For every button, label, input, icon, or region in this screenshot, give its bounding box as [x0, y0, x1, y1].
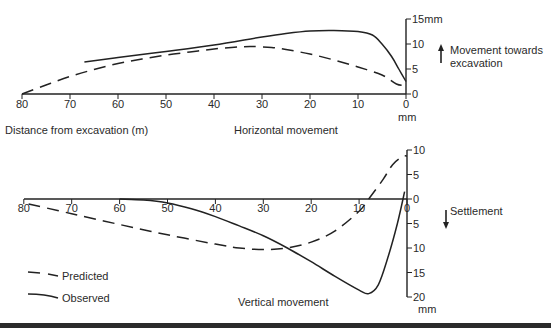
settlement-figure: 80706050403020100051015mm Distance from … [0, 0, 551, 328]
y-tick-label: 15 [413, 267, 425, 279]
y-tick-label: 10 [413, 144, 425, 156]
bottom-border-bar [0, 323, 551, 328]
y-tick-label: 0 [412, 88, 418, 100]
legend-predicted-label: Predicted [62, 270, 108, 282]
x-tick-label: 80 [16, 98, 28, 110]
y-tick-label: 5 [412, 63, 418, 75]
y-tick-label: 0 [413, 193, 419, 205]
x-tick-label: 20 [304, 98, 316, 110]
top-axes: 80706050403020100051015mm [16, 13, 443, 110]
bottom-chart-title: Vertical movement [238, 296, 328, 308]
x-tick-label: 0 [403, 98, 409, 110]
bottom-y-unit: mm [418, 303, 436, 315]
series-predicted-line [22, 46, 406, 94]
top-annotation-line1: Movement towards [450, 44, 543, 56]
bottom-annotation: Settlement [450, 205, 503, 217]
legend: Predicted Observed [28, 270, 110, 304]
y-tick-label: 20 [413, 291, 425, 303]
x-tick-label: 40 [208, 98, 220, 110]
x-tick-label: 50 [160, 98, 172, 110]
x-tick-label: 30 [257, 202, 269, 214]
y-tick-label: 5 [413, 218, 419, 230]
y-tick-label: 15mm [412, 13, 443, 25]
x-tick-label: 60 [112, 98, 124, 110]
vertical-movement-chart: 8070605040302010010505101520 Vertical mo… [18, 144, 503, 315]
dashed-line-swatch [28, 272, 40, 273]
top-series [22, 30, 406, 94]
x-tick-label: 40 [209, 202, 221, 214]
top-annotation-line2: excavation [450, 57, 503, 69]
legend-observed: Observed [28, 292, 110, 304]
horizontal-movement-chart: 80706050403020100051015mm Distance from … [5, 13, 543, 136]
x-tick-label: 10 [352, 98, 364, 110]
top-chart-title: Horizontal movement [234, 124, 338, 136]
top-y-unit: mm [398, 111, 416, 123]
x-tick-label: 20 [305, 202, 317, 214]
y-tick-label: 5 [413, 169, 419, 181]
up-arrow-icon [438, 44, 444, 63]
x-tick-label: 30 [256, 98, 268, 110]
solid-line-swatch [28, 294, 58, 298]
y-tick-label: 10 [412, 38, 424, 50]
top-x-axis-label: Distance from excavation (m) [5, 124, 148, 136]
x-tick-label: 60 [113, 202, 125, 214]
legend-observed-label: Observed [62, 292, 110, 304]
x-tick-label: 80 [18, 202, 30, 214]
series-observed-line [84, 30, 406, 81]
legend-predicted: Predicted [28, 270, 108, 282]
y-tick-label: 10 [413, 242, 425, 254]
down-arrow-icon [443, 210, 449, 229]
x-tick-label: 70 [64, 98, 76, 110]
